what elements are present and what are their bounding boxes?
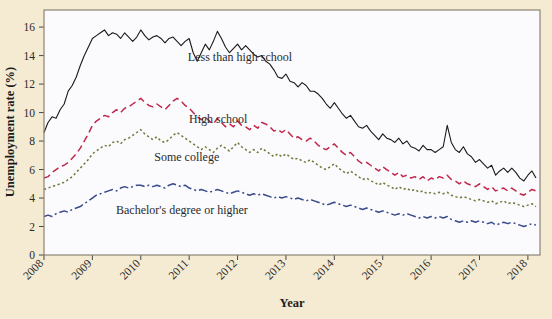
y-tick-label: 12 <box>24 78 36 90</box>
y-tick-label: 16 <box>24 21 36 33</box>
y-tick-label: 10 <box>24 107 36 119</box>
series-label-high-school: High school <box>189 112 248 126</box>
unemployment-rate-chart-figure: 0246810121416 20082009201020112012201320… <box>0 0 552 319</box>
plot-area-background <box>44 10 540 255</box>
y-tick-label: 14 <box>24 50 36 62</box>
series-label-bachelor-s-degree-or-higher: Bachelor's degree or higher <box>116 203 248 217</box>
y-axis-title: Unemployment rate (%) <box>3 67 17 198</box>
chart-canvas: 0246810121416 20082009201020112012201320… <box>0 0 552 319</box>
y-tick-label: 2 <box>29 221 35 233</box>
y-tick-label: 6 <box>29 164 35 176</box>
series-label-less-than-high-school: Less than high school <box>188 50 293 64</box>
x-axis-title: Year <box>280 296 305 310</box>
series-label-some-college: Some college <box>154 150 219 164</box>
y-tick-label: 4 <box>29 192 35 204</box>
y-tick-label: 8 <box>29 135 35 147</box>
